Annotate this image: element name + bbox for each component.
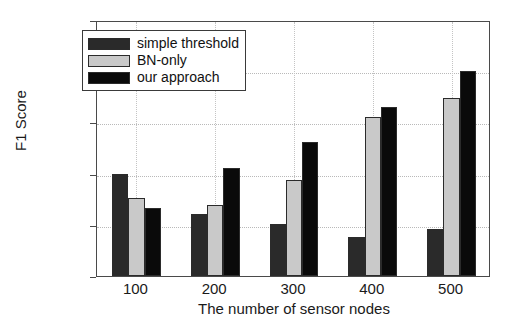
legend-label: our approach [137,70,220,85]
bar-200-BN-only [207,205,223,276]
bar-400-our-approach [381,107,397,276]
y-axis-label: F1 Score [12,71,29,171]
bar-200-simple-threshold [191,214,207,276]
bar-300-simple-threshold [270,224,286,276]
bar-200-our-approach [223,168,239,276]
x-tick-label: 200 [184,280,244,297]
bar-500-BN-only [443,98,459,276]
x-tick-label: 500 [421,280,481,297]
bar-100-our-approach [145,208,161,276]
x-tick-label: 300 [263,280,323,297]
legend-item-our-approach: our approach [88,69,239,86]
legend-label: simple threshold [137,36,239,51]
legend-swatch-icon [88,55,130,67]
bar-500-simple-threshold [427,229,443,276]
bar-chart-figure: F1 Score The number of sensor nodes 0.50… [0,0,514,327]
bar-400-BN-only [365,117,381,276]
bar-500-our-approach [460,71,476,276]
legend-label: BN-only [137,53,187,68]
x-tick-label: 400 [342,280,402,297]
bar-300-BN-only [286,180,302,276]
legend-item-BN-only: BN-only [88,52,239,69]
bar-100-simple-threshold [112,174,128,276]
legend-item-simple-threshold: simple threshold [88,35,239,52]
y-tick-mark [90,277,96,278]
x-axis-label: The number of sensor nodes [96,300,492,317]
legend: simple thresholdBN-onlyour approach [82,30,246,91]
bar-100-BN-only [128,198,144,276]
legend-swatch-icon [88,72,130,84]
bar-400-simple-threshold [348,237,364,276]
bar-300-our-approach [302,142,318,276]
legend-swatch-icon [88,38,130,50]
x-tick-label: 100 [105,280,165,297]
